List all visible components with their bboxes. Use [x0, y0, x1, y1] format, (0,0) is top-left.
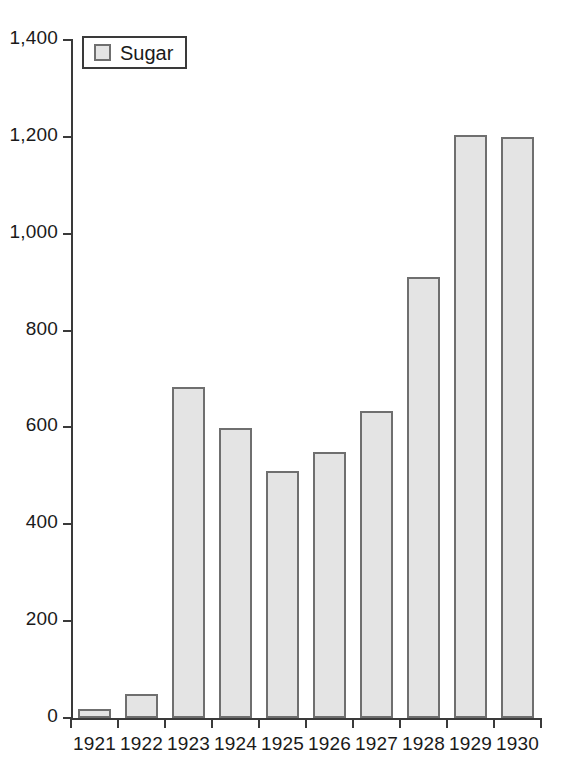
- y-axis-tick-label: 1,200: [2, 124, 58, 146]
- y-axis-tick: [63, 39, 72, 41]
- x-axis-tick: [164, 718, 166, 728]
- bar-1929: [454, 135, 487, 718]
- y-axis-line: [71, 39, 73, 720]
- y-axis-tick: [63, 426, 72, 428]
- bar-1927: [360, 411, 393, 718]
- y-axis-tick-label: 1,400: [2, 27, 58, 49]
- y-axis-tick-label: 1,000: [2, 221, 58, 243]
- x-axis-tick-label: 1930: [488, 733, 548, 755]
- bar-1930: [501, 137, 534, 718]
- y-axis-tick-label: 0: [2, 705, 58, 727]
- bar-1925: [266, 471, 299, 718]
- bar-1928: [407, 277, 440, 718]
- x-axis-tick: [117, 718, 119, 728]
- bar-1922: [125, 694, 158, 718]
- bar-1923: [172, 387, 205, 718]
- y-axis-tick: [63, 233, 72, 235]
- y-axis-tick: [63, 136, 72, 138]
- y-axis-tick-label: 400: [2, 511, 58, 533]
- y-axis-tick-label: 800: [2, 318, 58, 340]
- y-axis-tick: [63, 330, 72, 332]
- x-axis-tick: [446, 718, 448, 728]
- y-axis-tick-label: 200: [2, 608, 58, 630]
- x-axis-tick: [352, 718, 354, 728]
- legend: Sugar: [82, 36, 187, 69]
- x-axis-tick: [70, 718, 72, 728]
- y-axis-tick-label: 600: [2, 414, 58, 436]
- bar-1921: [78, 709, 111, 718]
- bar-1924: [219, 428, 252, 718]
- x-axis-tick: [258, 718, 260, 728]
- x-axis-tick: [399, 718, 401, 728]
- x-axis-tick: [493, 718, 495, 728]
- y-axis-tick: [63, 523, 72, 525]
- legend-label-sugar: Sugar: [120, 43, 173, 63]
- legend-swatch-sugar: [94, 44, 111, 61]
- bar-chart: 02004006008001,0001,2001,400 19211922192…: [0, 0, 568, 775]
- x-axis-tick: [305, 718, 307, 728]
- bar-1926: [313, 452, 346, 718]
- x-axis-tick: [540, 718, 542, 728]
- y-axis-tick: [63, 620, 72, 622]
- x-axis-tick: [211, 718, 213, 728]
